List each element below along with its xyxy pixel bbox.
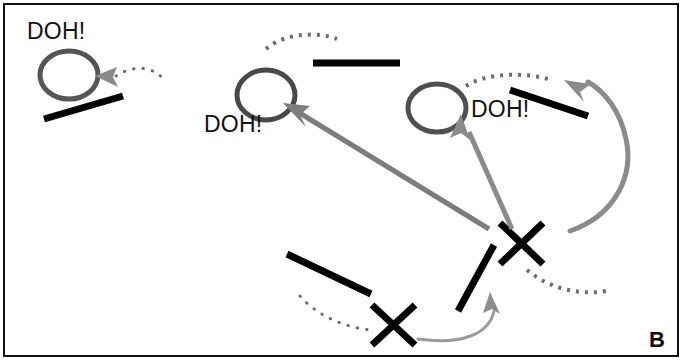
ball-circle-1: [40, 51, 98, 99]
bar-segment-4: [287, 254, 371, 294]
panel-letter-label: B: [649, 329, 665, 351]
arrow-right-curved-sweep: [564, 80, 628, 231]
doh-text-label-3: DOH!: [471, 98, 529, 121]
x-mark-1: [500, 223, 543, 264]
dotted-arc-right: [466, 75, 548, 86]
arrow-bottom-curved: [418, 292, 500, 341]
figure-panel-b: DOH! DOH! DOH! B: [0, 0, 684, 362]
dotted-arc-topleft: [95, 67, 166, 87]
doh-text-label-2: DOH!: [204, 113, 262, 136]
dotted-arc-topmiddle: [266, 35, 337, 49]
doh-text-label-1: DOH!: [27, 20, 85, 43]
x-mark-2: [372, 305, 415, 345]
dotted-arc-bottomright: [527, 270, 611, 292]
bar-segment-1: [44, 96, 123, 119]
dotted-arc-bottomleft: [300, 296, 372, 330]
figure-graphics: [0, 0, 684, 362]
